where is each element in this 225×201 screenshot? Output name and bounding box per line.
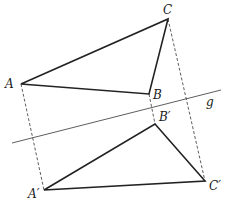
- label-a: A: [4, 77, 14, 91]
- label-a-prime: A′: [27, 187, 40, 201]
- axis-line-g: [12, 90, 221, 143]
- connector-c-c-prime: [168, 19, 205, 181]
- connector-a-a-prime: [21, 84, 44, 190]
- triangle-a-prime-b-prime-c-prime: [44, 124, 205, 190]
- label-b: B: [152, 88, 162, 102]
- label-c-prime: C′: [209, 179, 221, 193]
- triangle-abc: [21, 19, 168, 94]
- label-g: g: [206, 95, 214, 109]
- label-c: C: [163, 3, 172, 17]
- label-b-prime: B′: [158, 110, 171, 124]
- reflection-diagram: C A B g B′ A′ C′: [0, 0, 225, 201]
